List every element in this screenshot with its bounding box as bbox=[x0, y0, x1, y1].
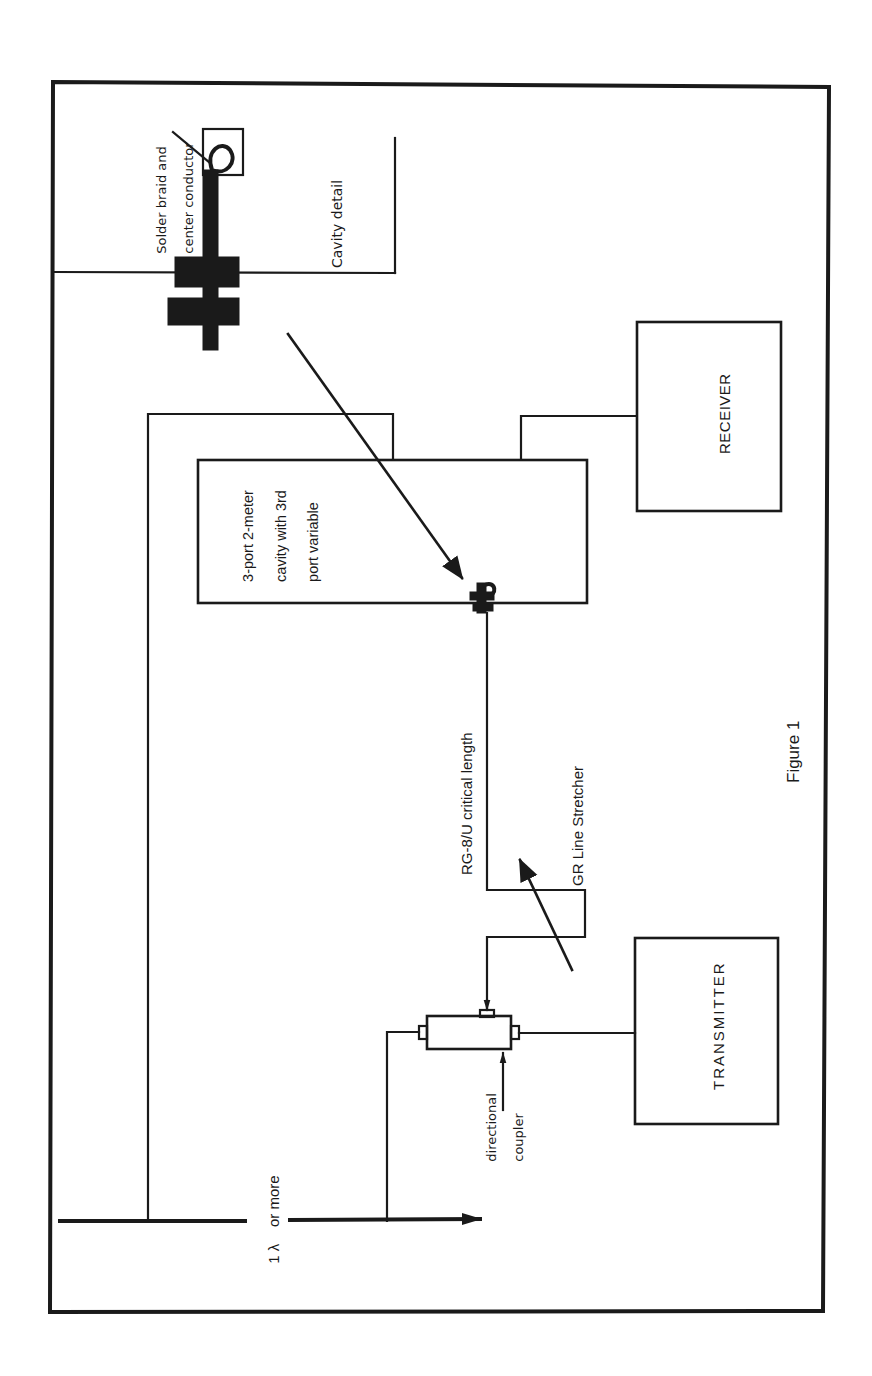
coupler-label-line1: directional bbox=[484, 1093, 499, 1162]
solder-note-line2: center conductor bbox=[181, 142, 196, 253]
antenna-spacing-label: 1 λ or more bbox=[251, 1175, 282, 1272]
cavity-label: 3-port 2-meter cavity with 3rd port vari… bbox=[224, 490, 321, 590]
third-port-connector bbox=[470, 583, 494, 613]
cavity-label-line2: cavity with 3rd bbox=[273, 490, 289, 582]
receiver-label: RECEIVER bbox=[717, 373, 732, 454]
coupler-label: directional coupler bbox=[472, 1093, 525, 1170]
cavity-label-line3: port variable bbox=[305, 502, 321, 582]
outer-frame bbox=[50, 82, 829, 1312]
spacing-lambda: 1 λ bbox=[265, 1244, 282, 1264]
diagram-canvas bbox=[0, 0, 872, 1376]
cavity-to-receiver-wire bbox=[521, 416, 636, 460]
cavity-detail-title: Cavity detail bbox=[330, 180, 344, 268]
coupler-label-line2: coupler bbox=[511, 1113, 526, 1162]
spacing-or-more: or more bbox=[265, 1175, 282, 1227]
line-stretcher-label: GR Line Stretcher bbox=[570, 766, 585, 886]
figure-caption: Figure 1 bbox=[785, 721, 802, 783]
solder-note-line1: Solder braid and bbox=[154, 146, 169, 254]
solder-note-label: Solder braid and center conductor bbox=[142, 142, 195, 262]
line-stretcher-arrow bbox=[520, 860, 572, 970]
receiver-block bbox=[637, 322, 781, 511]
cavity-label-line1: 3-port 2-meter bbox=[240, 490, 256, 582]
coax-label: RG-8/U critical length bbox=[459, 732, 474, 875]
transmitter-label: TRANSMITTER bbox=[711, 961, 726, 1090]
transmitter-block bbox=[635, 938, 778, 1124]
